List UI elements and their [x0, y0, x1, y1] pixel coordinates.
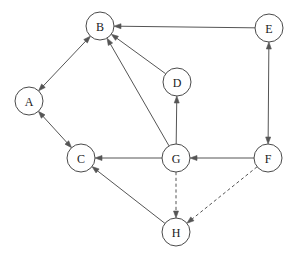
graph-canvas: ABCDEFGH — [0, 0, 300, 261]
edge-shaft — [109, 41, 169, 145]
arrowhead-icon — [92, 167, 99, 173]
node-label: G — [172, 152, 181, 166]
edge-f-h — [187, 167, 257, 223]
arrowhead-icon — [111, 34, 118, 40]
edge-f-g — [190, 156, 254, 161]
edge-shaft — [114, 36, 165, 73]
node-f[interactable]: F — [254, 144, 282, 172]
arrowhead-icon — [95, 156, 102, 161]
edges-layer — [38, 24, 271, 224]
node-label: C — [77, 152, 85, 166]
edge-a-b — [39, 36, 91, 91]
edge-e-f — [266, 42, 272, 144]
edge-shaft — [41, 114, 69, 145]
edge-shaft — [190, 167, 257, 221]
node-e[interactable]: E — [255, 14, 283, 42]
node-a[interactable]: A — [15, 87, 43, 115]
edge-g-h — [174, 172, 179, 218]
edge-shaft — [118, 26, 255, 28]
node-label: D — [173, 76, 182, 90]
edge-a-c — [38, 111, 71, 147]
arrowhead-icon — [107, 38, 113, 45]
node-label: H — [172, 226, 181, 240]
node-g[interactable]: G — [162, 144, 190, 172]
graph-diagram: ABCDEFGH — [0, 0, 300, 261]
edge-g-d — [174, 96, 179, 144]
edge-d-b — [111, 34, 165, 74]
node-label: E — [265, 22, 272, 36]
node-label: B — [96, 20, 104, 34]
arrowhead-icon — [114, 24, 121, 29]
edge-shaft — [41, 39, 87, 88]
edge-shaft — [268, 46, 269, 140]
edge-h-c — [92, 167, 165, 224]
node-c[interactable]: C — [67, 144, 95, 172]
node-b[interactable]: B — [86, 12, 114, 40]
arrowhead-icon — [174, 211, 179, 218]
node-h[interactable]: H — [162, 218, 190, 246]
edge-g-c — [95, 156, 162, 161]
edge-g-b — [107, 38, 169, 146]
edge-shaft — [176, 100, 177, 144]
arrowhead-icon — [266, 137, 271, 144]
arrowhead-icon — [190, 156, 197, 161]
arrowhead-icon — [266, 42, 271, 49]
arrowhead-icon — [174, 96, 179, 103]
node-label: F — [265, 152, 272, 166]
edge-e-b — [114, 24, 255, 29]
edge-shaft — [95, 169, 165, 223]
node-d[interactable]: D — [163, 68, 191, 96]
node-label: A — [25, 95, 34, 109]
